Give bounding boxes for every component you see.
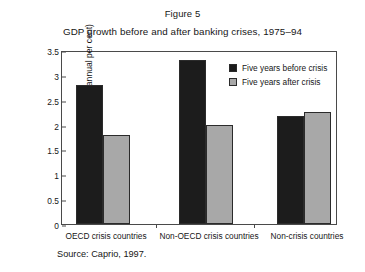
bar-before-crisis [76, 85, 103, 224]
chart-plot-area: Mean GDP growth (annual per cent) 00.511… [61, 51, 337, 225]
legend-swatch-icon [229, 64, 237, 72]
y-axis-tick-label: 1 [54, 171, 59, 181]
y-axis-tick-mark [62, 126, 66, 127]
category-label: Non-OECD crisis countries [159, 231, 258, 241]
bar-after-crisis [206, 125, 233, 224]
y-axis-tick-label: 3.5 [47, 47, 59, 57]
bar-after-crisis [103, 135, 130, 224]
y-axis-tick-mark [62, 52, 66, 53]
figure-title: GDP growth before and after banking cris… [0, 26, 365, 37]
y-axis-tick-label: 0 [54, 221, 59, 231]
x-axis-tick-mark [156, 224, 157, 228]
y-axis-tick-label: 0.5 [47, 196, 59, 206]
bar-after-crisis [304, 112, 331, 224]
x-axis-tick-mark [254, 224, 255, 228]
chart-legend: Five years before crisisFive years after… [229, 63, 327, 91]
bar-before-crisis [179, 60, 206, 224]
y-axis-tick-mark [62, 201, 66, 202]
category-label: OECD crisis countries [65, 231, 146, 241]
category-label: Non-crisis countries [271, 231, 344, 241]
legend-label: Five years after crisis [242, 77, 320, 87]
legend-item: Five years before crisis [229, 63, 327, 73]
bar-before-crisis [277, 116, 304, 224]
figure-label: Figure 5 [0, 8, 365, 19]
legend-item: Five years after crisis [229, 77, 327, 87]
y-axis-tick-mark [62, 176, 66, 177]
y-axis-tick-mark [62, 76, 66, 77]
y-axis-tick-mark [62, 151, 66, 152]
y-axis-tick-label: 2 [54, 122, 59, 132]
y-axis-tick-mark [62, 101, 66, 102]
legend-swatch-icon [229, 78, 237, 86]
y-axis-tick-label: 1.5 [47, 146, 59, 156]
y-axis-tick-label: 3 [54, 72, 59, 82]
source-note: Source: Caprio, 1997. [57, 249, 146, 259]
y-axis-tick-label: 2.5 [47, 97, 59, 107]
y-axis-tick-mark [62, 226, 66, 227]
legend-label: Five years before crisis [242, 63, 327, 73]
